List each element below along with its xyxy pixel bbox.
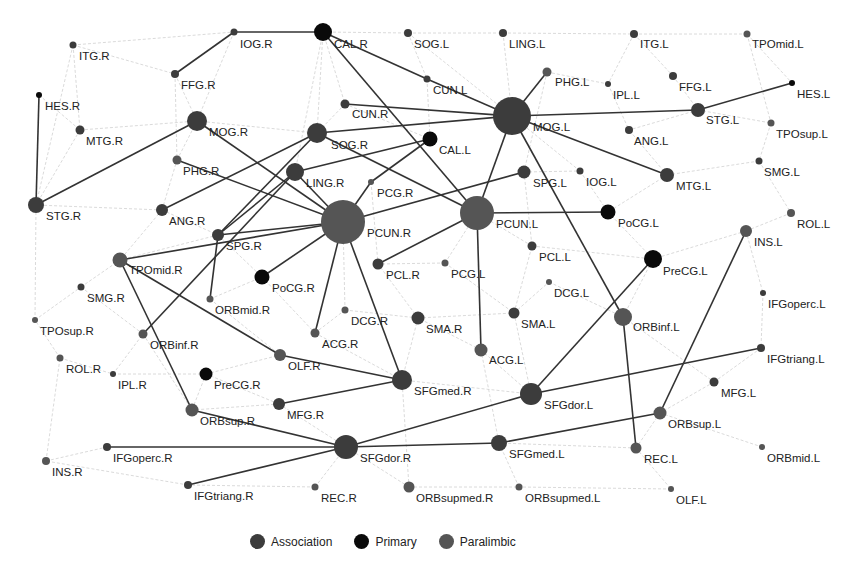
node-PHG.R (173, 156, 182, 165)
legend-item-primary: Primary (354, 534, 416, 549)
node-SFGdor.R (334, 435, 358, 459)
node-IFGtriang.L (757, 344, 765, 352)
node-OLF.L (668, 486, 674, 492)
node-label: STG.R (46, 210, 81, 222)
node-LING.L (499, 29, 507, 37)
node-label: SMA.R (426, 323, 462, 335)
node-label: PoCG.R (272, 282, 315, 294)
node-label: CAL.R (334, 38, 368, 50)
node-label: ORBsupmed.R (416, 492, 493, 504)
node-label: ORBinf.L (633, 321, 680, 333)
node-label: ACG.L (489, 354, 524, 366)
node-ROL.L (787, 209, 795, 217)
node-label: LING.R (306, 177, 344, 189)
node-REC.R (312, 484, 319, 491)
edge-IFGoperc.L-IFGtriang.L (761, 293, 763, 348)
node-REC.L (631, 443, 642, 454)
node-label: IFGtriang.L (767, 353, 825, 365)
node-PCL.R (373, 259, 384, 270)
node-TPOmid.R (113, 253, 128, 268)
node-PCUN.R (321, 200, 365, 244)
node-PCG.R (368, 179, 374, 185)
edge-TPOsup.R-SMG.R (35, 287, 81, 320)
node-label: PCL.L (539, 251, 572, 263)
edge-SPG.R-LING.R (218, 172, 295, 235)
node-label: ITG.L (640, 38, 669, 50)
node-label: IFGoperc.R (113, 452, 172, 464)
node-ANG.L (625, 126, 633, 134)
edge-ITG.R-IOG.R (73, 32, 234, 45)
edge-FFG.R-PHG.R (175, 74, 177, 160)
node-label: ITG.R (79, 50, 110, 62)
node-label: MOG.L (533, 121, 571, 133)
edge-SFGdor.R-SFGmed.L (346, 443, 499, 447)
edge-PCUN.L-ACG.L (477, 213, 481, 350)
node-label: MTG.L (676, 180, 712, 192)
node-label: PCL.R (386, 269, 420, 281)
node-SOG.L (404, 29, 412, 37)
node-TPOsup.R (32, 317, 38, 323)
node-IOG.L (577, 168, 584, 175)
edge-ANG.R-PHG.R (162, 160, 177, 210)
node-label: OLF.R (288, 360, 321, 372)
node-PHG.L (543, 68, 552, 77)
edge-SMA.L-PCL.L (514, 246, 532, 313)
edge-LING.L-ITG.L (503, 33, 634, 34)
edge-CAL.R-SOG.L (323, 32, 408, 33)
node-SFGmed.R (392, 370, 412, 390)
node-label: ORBmid.R (215, 304, 270, 316)
node-SMG.L (756, 158, 763, 165)
edge-MTG.L-PoCG.L (608, 175, 667, 212)
node-label: PCUN.R (367, 227, 411, 239)
edge-IFGtriang.R-SFGdor.R (188, 447, 346, 485)
node-MTG.L (660, 168, 674, 182)
edge-ORBinf.L-REC.L (623, 317, 636, 448)
node-label: SMG.R (87, 292, 125, 304)
node-label: MFG.R (287, 409, 324, 421)
edge-TPOsup.L-SMG.L (759, 123, 771, 161)
node-label: PHG.R (183, 165, 219, 177)
node-PreCG.L (644, 250, 662, 268)
node-label: SFGdor.L (544, 399, 594, 411)
node-SMA.L (509, 308, 520, 319)
node-ANG.R (156, 204, 168, 216)
node-label: TPOmid.L (752, 38, 804, 50)
node-label: ROL.L (797, 218, 831, 230)
edge-REC.R-IFGtriang.R (188, 485, 315, 487)
node-label: CAL.L (439, 144, 472, 156)
edge-PCUN.R-SFGmed.R (343, 222, 402, 380)
edge-CAL.R-PCUN.L (323, 32, 477, 213)
node-MOG.R (187, 111, 207, 131)
node-label: PCG.L (451, 268, 486, 280)
node-PoCG.L (601, 205, 616, 220)
edge-INS.R-ROL.R (46, 358, 60, 461)
node-SMG.R (78, 284, 85, 291)
node-label: DCG.R (351, 315, 388, 327)
node-label: IOG.R (240, 38, 273, 50)
node-label: IFGtriang.R (194, 490, 253, 502)
node-label: ORBsup.L (668, 418, 722, 430)
edge-CUN.L-CAL.L (427, 79, 430, 139)
paralimbic-dot-icon (439, 534, 454, 549)
node-label: SFGmed.R (414, 385, 472, 397)
node-DCG.R (342, 307, 349, 314)
node-TPOsup.L (768, 120, 775, 127)
node-IPL.R (110, 371, 116, 377)
association-dot-icon (250, 534, 265, 549)
primary-dot-icon (354, 534, 369, 549)
node-label: TPOmid.R (129, 264, 183, 276)
node-FFG.R (171, 70, 179, 78)
node-label: REC.R (321, 492, 357, 504)
legend: Association Primary Paralimbic (250, 534, 538, 549)
node-label: FFG.L (679, 81, 712, 93)
node-label: INS.R (52, 466, 83, 478)
node-label: HES.L (797, 88, 831, 100)
node-OLF.R (274, 349, 286, 361)
node-PoCG.R (255, 270, 270, 285)
legend-label: Association (271, 535, 332, 549)
node-label: INS.L (754, 236, 783, 248)
node-HES.L (789, 80, 795, 86)
node-ORBmid.R (207, 296, 214, 303)
node-DCG.L (546, 279, 552, 285)
node-label: ORBsupmed.L (525, 492, 601, 504)
